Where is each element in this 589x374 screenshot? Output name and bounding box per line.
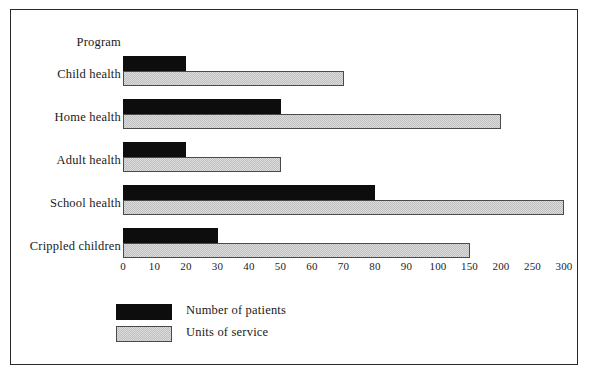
gray-hatch-swatch	[116, 326, 172, 342]
category-label: Child health	[3, 67, 121, 82]
bar-patients	[123, 142, 186, 157]
bar-units	[123, 114, 501, 129]
category-label: Crippled children	[3, 239, 121, 254]
x-tick-label: 200	[492, 260, 509, 272]
bar-patients	[123, 185, 375, 200]
bar-units	[123, 71, 344, 86]
x-tick-label: 30	[212, 260, 223, 272]
x-tick-label: 250	[524, 260, 541, 272]
x-tick-label: 20	[180, 260, 191, 272]
chart-frame: Program Child healthHome healthAdult hea…	[10, 9, 578, 365]
axis-header-label: Program	[11, 35, 121, 50]
x-tick-label: 300	[555, 260, 572, 272]
x-tick-label: 60	[306, 260, 317, 272]
legend-label: Number of patients	[186, 303, 286, 318]
bar-units	[123, 243, 470, 258]
category-label: School health	[3, 196, 121, 211]
top-cropped-text	[0, 0, 589, 9]
category-label: Home health	[3, 110, 121, 125]
x-tick-label: 0	[120, 260, 126, 272]
black-swatch	[116, 304, 172, 320]
x-tick-label: 100	[429, 260, 446, 272]
bar-patients	[123, 228, 218, 243]
x-tick-label: 150	[461, 260, 478, 272]
x-tick-label: 80	[369, 260, 380, 272]
x-tick-label: 40	[243, 260, 254, 272]
category-label: Adult health	[3, 153, 121, 168]
x-tick-label: 10	[149, 260, 160, 272]
x-tick-label: 50	[275, 260, 286, 272]
bar-units	[123, 157, 281, 172]
x-tick-label: 90	[401, 260, 412, 272]
bar-patients	[123, 99, 281, 114]
x-tick-label: 70	[338, 260, 349, 272]
bar-patients	[123, 56, 186, 71]
legend-label: Units of service	[186, 325, 268, 340]
bar-units	[123, 200, 564, 215]
bar-chart-plot: Program Child healthHome healthAdult hea…	[11, 10, 579, 366]
